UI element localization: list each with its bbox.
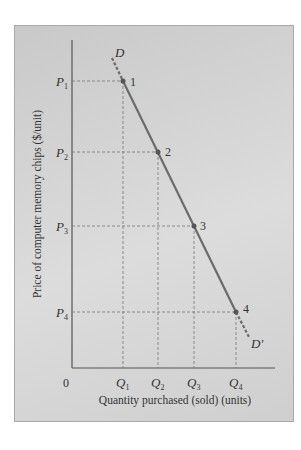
point-label-3: 3 (200, 219, 206, 233)
y-tick-p2: P2 (55, 145, 68, 162)
point-4 (234, 310, 239, 315)
y-tick-p4: P4 (55, 305, 68, 322)
y-axis-title: Price of computer memory chips ($/unit) (31, 110, 44, 298)
x-tick-q3: Q3 (187, 375, 200, 392)
y-tick-p1: P1 (55, 74, 68, 91)
x-axis-title: Quantity purchased (sold) (units) (99, 394, 252, 407)
x-tick-q1: Q1 (116, 375, 129, 392)
y-tick-p3: P3 (55, 219, 68, 236)
point-1 (121, 79, 126, 84)
point-label-2: 2 (165, 145, 171, 159)
point-2 (156, 150, 161, 155)
demand-chart: 1 2 3 4 D D′ P1 P2 P3 P4 0 Q1 Q2 Q3 Q4 Q… (0, 0, 301, 450)
x-tick-q4: Q4 (229, 375, 242, 392)
demand-label-d: D (114, 45, 125, 60)
point-label-1: 1 (130, 75, 136, 89)
x-tick-q2: Q2 (151, 375, 164, 392)
demand-label-d-prime: D′ (250, 336, 263, 351)
demand-curve (123, 81, 236, 312)
demand-curve-extension-top (112, 58, 123, 81)
origin-label: 0 (63, 376, 69, 390)
point-3 (192, 224, 197, 229)
point-label-4: 4 (243, 302, 249, 316)
guide-lines (72, 81, 236, 368)
